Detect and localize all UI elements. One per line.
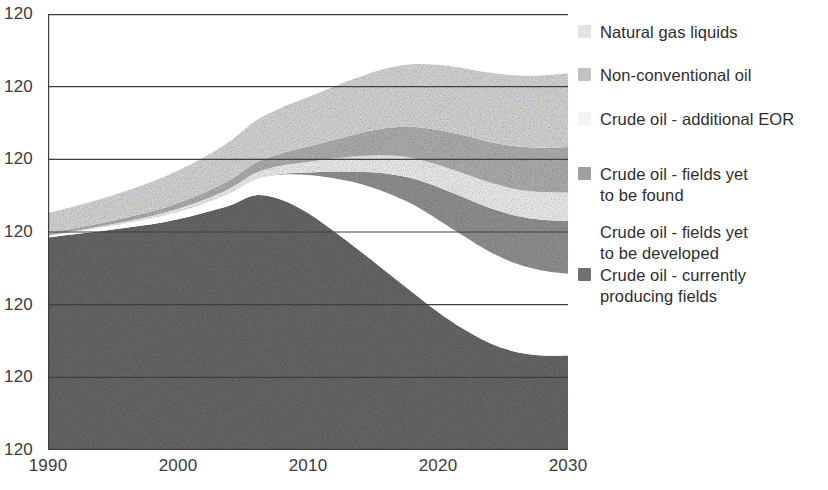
plot-area — [48, 14, 568, 450]
legend-item[interactable]: Non-conventional oil — [578, 65, 752, 86]
legend-swatch-icon — [578, 112, 591, 125]
y-axis-tick-label: 120 — [4, 295, 44, 315]
legend-item-label: Natural gas liquids — [600, 22, 738, 43]
y-axis-tick-label: 120 — [4, 222, 44, 242]
legend-swatch-icon — [578, 68, 591, 81]
chart-figure: 120120120120120120120 199020002010202020… — [0, 0, 828, 490]
legend-item[interactable]: Crude oil - fields yet to be developed — [578, 222, 748, 264]
legend-swatch-icon — [578, 167, 591, 180]
legend-item-label: Crude oil - fields yet to be developed — [600, 222, 748, 264]
legend-item[interactable]: Crude oil - additional EOR — [578, 109, 794, 130]
legend-item[interactable]: Crude oil - currently producing fields — [578, 265, 746, 307]
legend-item-label: Crude oil - currently producing fields — [600, 265, 746, 307]
legend-swatch-icon — [578, 25, 591, 38]
legend-swatch-icon — [578, 225, 591, 238]
x-axis-tick-label: 2010 — [268, 456, 348, 476]
x-axis-tick-label: 1990 — [8, 456, 88, 476]
x-axis-tick-label: 2020 — [398, 456, 478, 476]
legend-swatch-icon — [578, 268, 591, 281]
x-axis-tick-label: 2000 — [138, 456, 218, 476]
y-axis-tick-label: 120 — [4, 367, 44, 387]
y-axis-tick-label: 120 — [4, 149, 44, 169]
y-axis-tick-label: 120 — [4, 77, 44, 97]
legend-item[interactable]: Crude oil - fields yet to be found — [578, 164, 748, 206]
legend-item[interactable]: Natural gas liquids — [578, 22, 738, 43]
legend-item-label: Non-conventional oil — [600, 65, 752, 86]
legend-item-label: Crude oil - fields yet to be found — [600, 164, 748, 206]
x-axis-tick-label: 2030 — [528, 456, 608, 476]
stacked-area-chart — [48, 14, 568, 450]
legend-item-label: Crude oil - additional EOR — [600, 109, 794, 130]
y-axis-tick-label: 120 — [4, 4, 44, 24]
